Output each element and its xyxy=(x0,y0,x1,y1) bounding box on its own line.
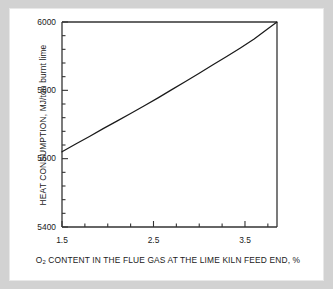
x-tick-label: 2.5 xyxy=(138,235,168,245)
y-axis-ticks xyxy=(62,22,68,227)
x-tick-label: 3.5 xyxy=(230,235,260,245)
data-series-line xyxy=(62,22,277,152)
y-tick-label: 5800 xyxy=(22,85,56,95)
y-tick-label: 6000 xyxy=(22,17,56,27)
figure-outer-frame: HEAT CONSUMPTION, MJ/ton burnt lime O2 C… xyxy=(0,0,333,289)
x-tick-label: 1.5 xyxy=(47,235,77,245)
x-axis-title-rest: CONTENT IN THE FLUE GAS AT THE LIME KILN… xyxy=(46,255,300,265)
x-axis-ticks xyxy=(62,221,268,227)
y-axis-title: HEAT CONSUMPTION, MJ/ton burnt lime xyxy=(38,20,48,230)
y-tick-label: 5400 xyxy=(22,222,56,232)
x-axis-title: O2 CONTENT IN THE FLUE GAS AT THE LIME K… xyxy=(22,255,314,265)
chart-plot-area xyxy=(0,0,333,289)
axes-frame xyxy=(62,22,277,227)
y-tick-label: 5600 xyxy=(22,153,56,163)
